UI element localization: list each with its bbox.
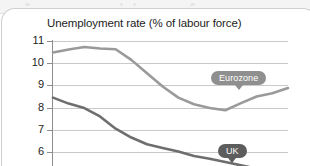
series-line-uk (53, 98, 288, 166)
callout-pointer-icon (228, 158, 236, 163)
callout-uk-label: UK (226, 146, 239, 156)
screenshot-root: Unemployment rate (% of labour force) 11… (0, 0, 310, 166)
callout-uk: UK (218, 144, 247, 158)
callout-eurozone-label: Eurozone (219, 73, 258, 83)
callout-eurozone: Eurozone (211, 71, 266, 85)
callout-pointer-icon (235, 85, 243, 90)
chart-figure: Unemployment rate (% of labour force) 11… (0, 0, 310, 166)
